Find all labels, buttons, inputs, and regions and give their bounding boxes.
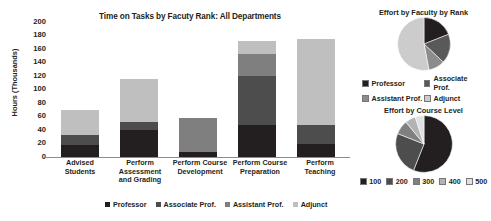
legend-label: Assistant Prof. [372,94,423,103]
legend-item: Professor [362,74,424,92]
legend-item: Adjunct [293,200,328,209]
y-tick-100: 100 [22,85,46,93]
legend-swatch [439,178,446,185]
legend-label: 400 [449,177,461,186]
legend-item: Associate Prof. [156,200,216,209]
pie-rank-legend: ProfessorAssociate Prof.Assistant Prof.A… [362,74,486,103]
y-tick-20: 20 [22,139,46,147]
legend-item: Associate Prof. [424,74,486,92]
legend-swatch [362,80,369,87]
legend-item: Assistant Prof. [225,200,284,209]
pie-rank-graphic [356,17,491,71]
x-label-line: Students [49,168,111,177]
legend-swatch [360,178,367,185]
legend-item: 100 [360,177,382,186]
legend-swatch [225,202,230,207]
x-label-4: PerformTeaching [289,159,351,176]
bar-segment [297,125,335,144]
bar-segment [297,144,335,158]
legend-swatch [293,202,298,207]
bar-chart-panel: Time on Tasks by Facuty Rank: All Depart… [0,0,356,221]
bar-segment [120,130,158,157]
bar-segment [120,79,158,122]
bar-segment [120,122,158,130]
bar-column [297,39,335,157]
y-tick-60: 60 [22,112,46,120]
legend-label: Professor [372,79,406,88]
x-label-line: Teaching [289,168,351,177]
bar-column [179,118,217,157]
bar-segment [61,110,99,134]
x-label-0: AdvisedStudents [49,159,111,176]
bar-segment [179,152,217,157]
legend-item: 200 [386,177,408,186]
pie-course-graphic [356,115,491,173]
x-label-1: PerformAssessmentand Grading [109,159,171,185]
bar-segment [238,41,276,55]
legend-item: 400 [439,177,461,186]
y-tick-80: 80 [22,99,46,107]
legend-swatch [105,202,110,207]
bar-column [120,79,158,157]
legend-swatch [362,95,369,102]
legend-label: Associate Prof. [433,74,485,92]
legend-item: Assistant Prof. [362,94,424,103]
pie-chart-course-panel: Effort by Course Level 100200300400500 [356,106,491,218]
x-label-line: Preparation [229,168,291,177]
legend-label: Adjunct [434,94,461,103]
chart-figure: Time on Tasks by Facuty Rank: All Depart… [0,0,491,221]
bar-segment [179,118,217,152]
pie-rank-title: Effort by Faculty by Rank [356,8,491,17]
y-tick-160: 160 [22,45,46,53]
bar-segment [238,54,276,76]
bar-chart-legend: ProfessorAssociate Prof.Assistant Prof.A… [105,200,327,209]
pie-course-legend: 100200300400500 [356,177,491,186]
bar-chart-title: Time on Tasks by Facuty Rank: All Depart… [40,12,340,21]
legend-item: 300 [413,177,435,186]
bar-segment [61,145,99,157]
pie-rank-svg [397,17,451,71]
legend-label: 500 [475,177,487,186]
pie-course-svg [395,115,453,173]
legend-label: Adjunct [301,200,328,209]
y-axis-tick-labels: 200180160140120100806040200 [22,18,46,162]
legend-label: Assistant Prof. [233,200,284,209]
bar-segment [238,76,276,125]
bar-segment [238,125,276,157]
legend-label: Associate Prof. [164,200,216,209]
legend-swatch [413,178,420,185]
legend-label: 300 [422,177,434,186]
bar-segment [297,39,335,125]
bar-column [238,41,276,157]
x-label-3: Perform CoursePreparation [229,159,291,176]
y-axis-title: Hours (Thousands) [10,33,19,133]
x-label-2: Perform CourseDevelopment [169,159,231,176]
x-axis-category-labels: AdvisedStudentsPerformAssessmentand Grad… [50,159,350,193]
legend-swatch [156,202,161,207]
legend-item: 500 [466,177,488,186]
legend-item: Professor [105,200,147,209]
y-tick-180: 180 [22,31,46,39]
legend-label: 100 [369,177,381,186]
legend-item: Adjunct [424,94,486,103]
bar-segment [61,135,99,145]
pie-chart-rank-panel: Effort by Faculty by Rank ProfessorAssoc… [356,8,491,108]
pie-course-title: Effort by Course Level [356,106,491,115]
pie-slice [397,18,428,71]
y-tick-120: 120 [22,72,46,80]
legend-swatch [424,80,431,87]
legend-label: 200 [396,177,408,186]
legend-swatch [386,178,393,185]
y-tick-40: 40 [22,126,46,134]
legend-label: Professor [113,200,147,209]
bar-column [61,110,99,157]
y-tick-0: 0 [22,153,46,161]
legend-swatch [466,178,473,185]
y-tick-140: 140 [22,58,46,66]
x-label-line: Development [169,168,231,177]
x-label-line: and Grading [109,176,171,185]
plot-area [50,22,346,157]
y-tick-200: 200 [22,18,46,26]
legend-swatch [424,95,431,102]
